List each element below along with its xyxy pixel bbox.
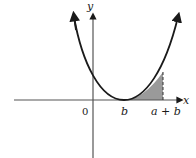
diagram: y x 0 b a + b [0, 0, 196, 158]
x-axis-label: x [183, 94, 190, 107]
shaded-area [124, 72, 163, 100]
tick-label-a-plus-b: a + b [151, 105, 181, 118]
parabola-left-arrow [74, 16, 76, 30]
y-axis-label: y [86, 0, 94, 13]
tick-label-b: b [121, 105, 128, 118]
origin-label: 0 [82, 106, 88, 117]
